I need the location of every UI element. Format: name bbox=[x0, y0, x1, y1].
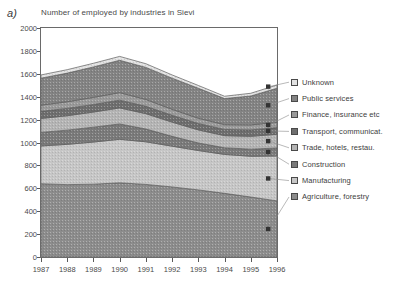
y-axis-tick-label: 1200 bbox=[20, 115, 37, 124]
x-axis-tick-label: 1991 bbox=[138, 265, 155, 274]
x-axis-tick-mark bbox=[120, 258, 121, 262]
legend-swatch-icon bbox=[291, 161, 298, 168]
x-axis-tick-mark bbox=[277, 258, 278, 262]
x-axis-tick-label: 1987 bbox=[33, 265, 50, 274]
chart-title: Number of employed by industries in Siev… bbox=[41, 8, 195, 17]
x-axis-tick-label: 1988 bbox=[59, 265, 76, 274]
x-axis-tick-mark bbox=[172, 258, 173, 262]
legend-item[interactable]: Trade, hotels, restau. bbox=[291, 140, 401, 156]
legend-swatch-icon bbox=[291, 193, 298, 200]
legend-item-label: Public services bbox=[302, 94, 354, 103]
legend-item[interactable]: Finance, insurance etc bbox=[291, 107, 401, 123]
plot-area bbox=[40, 27, 278, 258]
y-axis: 0200400600800100012001400160018002000 bbox=[0, 27, 37, 258]
legend-item[interactable]: Public services bbox=[291, 90, 401, 106]
legend-swatch-icon bbox=[291, 177, 298, 184]
x-axis-tick-label: 1990 bbox=[111, 265, 128, 274]
legend-item-label: Trade, hotels, restau. bbox=[302, 143, 375, 152]
x-axis-tick-mark bbox=[93, 258, 94, 262]
x-axis-tick-mark bbox=[225, 258, 226, 262]
legend-item-label: Finance, insurance etc bbox=[302, 110, 380, 119]
x-axis-tick-mark bbox=[41, 258, 42, 262]
legend-swatch-icon bbox=[291, 144, 298, 151]
panel-label: a) bbox=[7, 7, 17, 19]
stacked-area-svg bbox=[41, 28, 277, 257]
y-axis-tick-label: 1000 bbox=[20, 138, 37, 147]
legend-item-label: Unknown bbox=[302, 78, 334, 87]
legend-item[interactable]: Transport, communicat. bbox=[291, 123, 401, 139]
chart-page: a) Number of employed by industries in S… bbox=[0, 0, 402, 300]
legend-item-label: Transport, communicat. bbox=[302, 127, 383, 136]
legend: UnknownPublic servicesFinance, insurance… bbox=[291, 74, 401, 205]
y-axis-tick-label: 400 bbox=[24, 207, 37, 216]
x-axis-tick-mark bbox=[198, 258, 199, 262]
y-axis-tick-label: 600 bbox=[24, 184, 37, 193]
legend-swatch-icon bbox=[291, 95, 298, 102]
legend-item[interactable]: Manufacturing bbox=[291, 172, 401, 188]
legend-item[interactable]: Unknown bbox=[291, 74, 401, 90]
x-axis-tick-label: 1989 bbox=[85, 265, 102, 274]
x-axis: 1987198819891990199119921993199419951996 bbox=[40, 258, 278, 280]
y-axis-tick-label: 1800 bbox=[20, 46, 37, 55]
legend-item[interactable]: Agriculture, forestry bbox=[291, 189, 401, 205]
x-axis-tick-mark bbox=[146, 258, 147, 262]
x-axis-tick-label: 1994 bbox=[216, 265, 233, 274]
legend-swatch-icon bbox=[291, 79, 298, 86]
legend-item[interactable]: Construction bbox=[291, 156, 401, 172]
x-axis-tick-label: 1993 bbox=[190, 265, 207, 274]
y-axis-tick-label: 1600 bbox=[20, 69, 37, 78]
legend-swatch-icon bbox=[291, 111, 298, 118]
y-axis-tick-label: 2000 bbox=[20, 24, 37, 33]
legend-item-label: Agriculture, forestry bbox=[302, 192, 369, 201]
x-axis-tick-label: 1996 bbox=[269, 265, 286, 274]
legend-item-label: Construction bbox=[302, 160, 345, 169]
y-axis-tick-label: 1400 bbox=[20, 92, 37, 101]
legend-item-label: Manufacturing bbox=[302, 176, 351, 185]
x-axis-tick-label: 1992 bbox=[164, 265, 181, 274]
x-axis-tick-mark bbox=[67, 258, 68, 262]
legend-swatch-icon bbox=[291, 128, 298, 135]
y-axis-tick-label: 800 bbox=[24, 161, 37, 170]
x-axis-tick-label: 1995 bbox=[242, 265, 259, 274]
x-axis-tick-mark bbox=[251, 258, 252, 262]
y-axis-tick-label: 200 bbox=[24, 230, 37, 239]
